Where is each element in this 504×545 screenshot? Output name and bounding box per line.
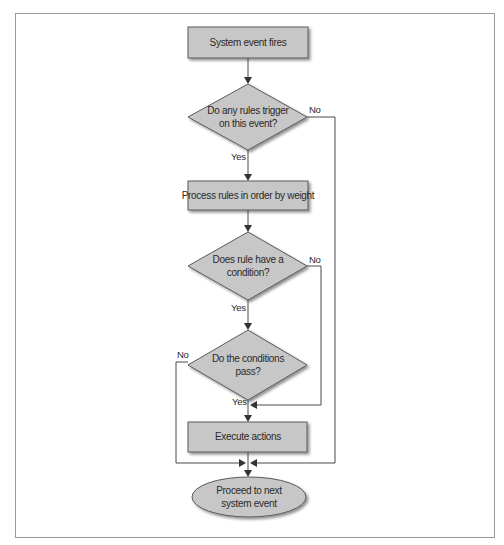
node-system-event-fires: System event fires bbox=[188, 27, 308, 58]
edge-label-yes: Yes bbox=[231, 151, 246, 162]
edge-label-yes: Yes bbox=[231, 302, 246, 313]
arrowhead-icon bbox=[244, 77, 252, 84]
node-conditions-pass-decision: Do the conditions pass? bbox=[188, 330, 307, 400]
edge-label-yes: Yes bbox=[232, 396, 247, 407]
edge-label-no: No bbox=[177, 349, 189, 360]
node-execute-actions: Execute actions bbox=[188, 422, 307, 452]
edge-label-no: No bbox=[309, 254, 321, 265]
edge-label-no: No bbox=[309, 104, 321, 115]
arrowhead-icon bbox=[239, 459, 246, 467]
node-label: Execute actions bbox=[215, 431, 281, 442]
arrowhead-icon bbox=[244, 470, 252, 477]
node-label: pass? bbox=[235, 366, 261, 377]
flowchart: System event fires Do any rules trigger … bbox=[0, 0, 504, 545]
node-label: System event fires bbox=[210, 37, 287, 48]
node-rule-condition-decision: Does rule have a condition? bbox=[188, 232, 307, 300]
node-label: Do any rules trigger bbox=[207, 105, 289, 116]
arrowhead-icon bbox=[244, 415, 252, 422]
node-rules-trigger-decision: Do any rules trigger on this event? bbox=[188, 84, 307, 150]
node-process-rules: Process rules in order by weight bbox=[182, 181, 315, 210]
node-label: Do the conditions bbox=[212, 353, 284, 364]
node-label: condition? bbox=[227, 267, 270, 278]
node-label: system event bbox=[221, 498, 277, 509]
node-proceed-next-event: Proceed to next system event bbox=[192, 477, 306, 517]
arrowhead-icon bbox=[250, 401, 257, 409]
node-label: Does rule have a bbox=[213, 254, 285, 265]
arrowhead-icon bbox=[244, 323, 252, 330]
edge-trigger-no bbox=[257, 117, 335, 463]
arrowhead-icon bbox=[250, 459, 257, 467]
arrowhead-icon bbox=[244, 225, 252, 232]
arrowhead-icon bbox=[244, 174, 252, 181]
node-label: on this event? bbox=[219, 118, 278, 129]
node-label: Proceed to next bbox=[216, 485, 282, 496]
node-label: Process rules in order by weight bbox=[182, 190, 315, 201]
